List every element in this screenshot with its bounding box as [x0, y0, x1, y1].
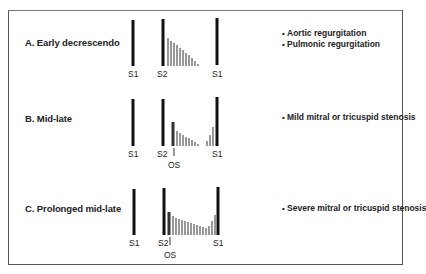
row-b-murmur-bar — [213, 127, 214, 146]
row-b-murmur-bar — [183, 135, 184, 146]
row-c-murmur-bar — [191, 223, 192, 235]
row-c-murmur-bar — [168, 212, 171, 235]
row-a-murmur-bar — [192, 58, 193, 66]
row-c-murmur-bar — [173, 216, 174, 235]
row-a-s1-left-bar — [132, 20, 135, 66]
row-c-murmur-bar — [203, 227, 204, 235]
row-c-murmur-bar — [179, 219, 180, 235]
row-c-s1-right-bar — [217, 187, 220, 235]
row-b-murmur-bar — [198, 144, 199, 146]
row-c-s1-left-bar — [133, 189, 136, 235]
row-b-murmur-bar — [195, 142, 196, 146]
row-a-murmur-bar — [177, 45, 178, 66]
row-a-murmur-bar — [195, 61, 196, 66]
row-c-os-tick — [170, 237, 171, 245]
row-c-murmur-bar — [176, 218, 177, 235]
row-a-murmur-bar — [183, 50, 184, 66]
row-b-murmur-bar — [207, 141, 208, 146]
row-b-murmur-bar — [186, 137, 187, 146]
row-b-os-tick — [174, 148, 175, 156]
row-c-murmur-bar — [212, 221, 213, 235]
row-b-murmur-bar — [189, 138, 190, 146]
row-b-murmur-bar — [210, 135, 211, 146]
row-c-murmur-bar — [194, 224, 195, 235]
row-b-s1-right-bar — [216, 97, 219, 146]
row-c-s2-bar — [163, 188, 166, 235]
row-a-murmur-bar — [174, 43, 175, 66]
row-a-murmur-bar — [186, 53, 187, 66]
row-c-murmur-bar — [197, 225, 198, 235]
row-b-murmur-bar — [172, 122, 175, 146]
row-c-murmur-bar — [209, 226, 210, 235]
row-a-murmur-bar — [198, 64, 199, 66]
row-b-s1-left-bar — [132, 99, 135, 146]
row-b-murmur-bar — [177, 131, 178, 146]
row-c-murmur-bar — [185, 221, 186, 235]
row-a-s2-bar — [162, 19, 165, 66]
row-a-murmur-bar — [168, 38, 169, 66]
row-b-s2-bar — [162, 99, 165, 146]
row-a-s1-right-bar — [216, 18, 219, 65]
row-c-murmur-bar — [215, 215, 216, 235]
row-c-murmur-bar — [188, 222, 189, 235]
row-a-murmur-bar — [171, 41, 172, 66]
row-c-murmur-bar — [182, 220, 183, 235]
row-c-murmur-bar — [206, 228, 207, 235]
row-a-murmur-bar — [189, 55, 190, 66]
row-a-murmur-bar — [180, 48, 181, 66]
row-b-murmur-bar — [192, 140, 193, 146]
row-b-murmur-bar — [180, 133, 181, 146]
row-c-murmur-bar — [200, 226, 201, 235]
